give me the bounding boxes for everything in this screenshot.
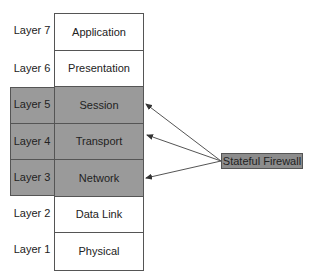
arrow-to-network	[146, 161, 221, 178]
arrow-to-transport	[147, 135, 221, 161]
stateful-firewall-label: Stateful Firewall	[221, 153, 303, 169]
arrow-to-session	[146, 104, 221, 161]
arrows	[0, 0, 312, 278]
